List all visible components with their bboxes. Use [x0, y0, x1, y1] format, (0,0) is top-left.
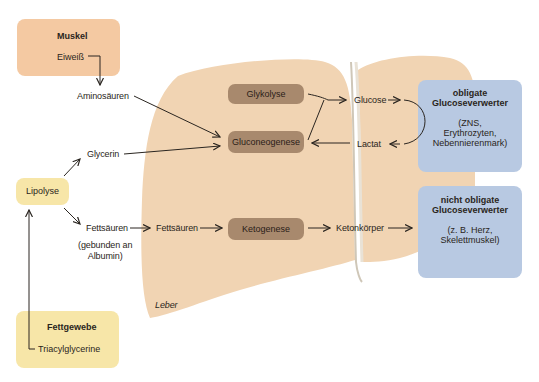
line-gluconeogenese-glucose — [308, 100, 324, 140]
arrow-glykolyse-glucose — [308, 94, 346, 100]
arrow-lipolyse-fettsaeuren — [64, 208, 80, 224]
arrows-layer — [0, 0, 539, 382]
arrow-aminosaeuren-gluconeogenese — [134, 96, 220, 137]
arrow-triacylglycerine-lipolyse — [29, 210, 35, 349]
arrow-eiweiss-aminosaeuren — [88, 56, 100, 85]
arrow-lipolyse-glycerin — [64, 159, 80, 176]
curve-glucose-lactat — [404, 100, 425, 144]
arrow-glycerin-gluconeogenese — [124, 146, 220, 154]
